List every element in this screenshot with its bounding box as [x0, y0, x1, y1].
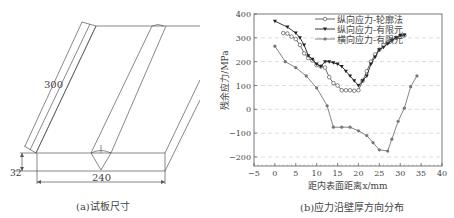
y-tick-label: 400: [236, 10, 251, 19]
y-tick-label: 0: [246, 105, 251, 114]
y-tick-label: 300: [236, 34, 251, 43]
x-axis-label: 距内表面距离x/mm: [308, 180, 388, 191]
stress-chart-svg: −200−1000100200300400−50510152025303540距…: [200, 0, 454, 218]
y-tick-label: −200: [229, 153, 251, 162]
x-tick-label: 0: [272, 169, 277, 178]
x-tick-label: 5: [293, 169, 298, 178]
y-tick-label: 100: [236, 82, 251, 91]
x-tick-label: 20: [353, 169, 363, 178]
x-tick-label: 40: [437, 169, 447, 178]
y-axis-label: 残余应力/MPa: [219, 50, 230, 110]
dimension-length: 300: [44, 79, 63, 90]
x-tick-label: −5: [248, 169, 260, 178]
y-tick-label: 200: [236, 58, 251, 67]
legend: 纵向应力-轮廓法纵向应力-有限元横向应力-有限元: [315, 14, 403, 45]
x-tick-label: 25: [374, 169, 384, 178]
x-tick-label: 35: [416, 169, 426, 178]
x-tick-label: 15: [332, 169, 342, 178]
caption-b: (b)应力沿壁厚方向分布: [300, 199, 404, 214]
dimension-thickness: 32: [10, 168, 21, 178]
legend-label: 横向应力-有限元: [337, 34, 403, 45]
plate-drawing-svg: 300 240 32: [0, 0, 200, 218]
dimension-width: 240: [92, 172, 111, 183]
legend-label: 纵向应力-有限元: [337, 24, 403, 35]
series-2: [273, 45, 418, 153]
y-tick-label: −100: [229, 129, 251, 138]
x-tick-label: 10: [312, 169, 322, 178]
x-tick-label: 30: [395, 169, 405, 178]
panel-a-plate-drawing: 300 240 32 (a)试板尺寸: [0, 0, 200, 218]
legend-label: 纵向应力-轮廓法: [337, 14, 403, 25]
panel-b-stress-chart: −200−1000100200300400−50510152025303540距…: [200, 0, 454, 218]
caption-a: (a)试板尺寸: [76, 198, 130, 213]
